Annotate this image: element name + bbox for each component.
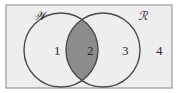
region-2-label: 2 — [87, 43, 94, 58]
set-r-label: ℛ — [138, 9, 149, 23]
region-4-label: 4 — [156, 43, 163, 58]
region-1-label: 1 — [54, 43, 61, 58]
region-3-label: 3 — [122, 43, 129, 58]
venn-diagram: 𝒲 ℛ 1 2 3 4 — [0, 0, 177, 93]
